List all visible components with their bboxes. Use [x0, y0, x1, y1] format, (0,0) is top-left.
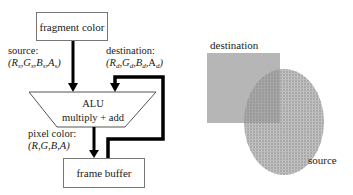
- frame-buffer-box: frame buffer: [63, 158, 145, 188]
- alu-subtitle: multiply + add: [50, 111, 136, 125]
- alu-title: ALU: [50, 97, 136, 111]
- pixel-color-title: pixel color:: [28, 128, 76, 140]
- source-label: source: (Rs,Gs,Bs,As): [8, 45, 61, 72]
- source-tuple: (Rs,Gs,Bs,As): [8, 57, 61, 72]
- destination-label: destination: (Rd,Gd,Bd,Ad): [106, 45, 163, 72]
- illustration-source-label: source: [308, 154, 337, 166]
- destination-tuple: (Rd,Gd,Bd,Ad): [106, 57, 163, 72]
- illustration-destination-label: destination: [210, 39, 258, 51]
- source-arrow: [68, 40, 78, 92]
- pixel-color-arrow: [89, 127, 99, 158]
- source-title: source:: [8, 45, 61, 57]
- pixel-color-tuple: (R,G,B,A): [28, 140, 76, 152]
- frame-buffer-label: frame buffer: [76, 167, 131, 179]
- pixel-color-label: pixel color: (R,G,B,A): [28, 128, 76, 152]
- blend-illustration: [207, 53, 324, 175]
- alu-label: ALU multiply + add: [50, 97, 136, 125]
- destination-title: destination:: [106, 45, 163, 57]
- fragment-color-box: fragment color: [36, 12, 108, 41]
- fragment-color-label: fragment color: [39, 21, 104, 33]
